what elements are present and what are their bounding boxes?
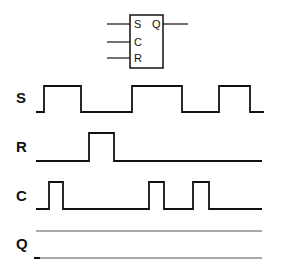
signal-r-label: R <box>16 138 27 155</box>
pin-q-label: Q <box>152 18 161 30</box>
signal-q-label: Q <box>16 235 28 252</box>
signal-s-label: S <box>16 89 26 106</box>
signal-r-waveform <box>36 133 262 161</box>
signal-c-label: C <box>16 187 27 204</box>
signal-s-waveform <box>36 86 264 112</box>
pin-s-label: S <box>134 18 141 30</box>
flipflop-symbol: S C R Q <box>107 15 188 68</box>
pin-r-label: R <box>134 52 142 64</box>
signal-c-waveform <box>36 182 262 209</box>
pin-c-label: C <box>134 36 142 48</box>
sr-flipflop-timing-diagram: S C R Q S R C Q <box>0 0 283 274</box>
